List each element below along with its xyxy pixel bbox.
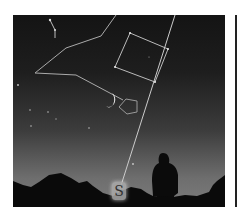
south-direction-label: S <box>112 182 126 200</box>
night-sky-photo: S <box>13 15 225 207</box>
adjacent-image-edge <box>235 15 237 207</box>
moon-icon <box>106 93 115 107</box>
constellation-overlay <box>13 15 225 207</box>
large-constellation-outline <box>35 15 123 100</box>
small-constellation <box>50 20 55 38</box>
pentagon-outline <box>119 99 137 114</box>
square-constellation <box>115 33 168 82</box>
